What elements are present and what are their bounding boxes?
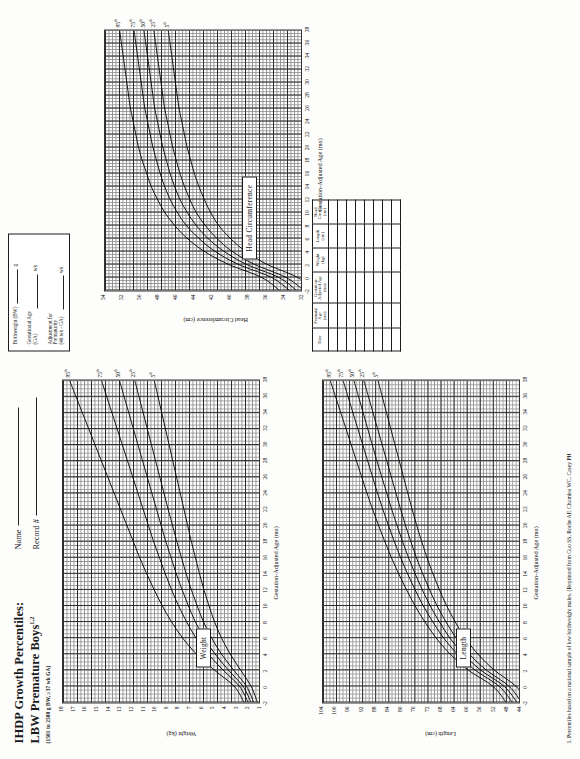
y-tick-label: 40	[227, 294, 233, 307]
x-tick-label: 26	[305, 105, 311, 111]
y-tick-label: 34	[281, 294, 287, 307]
x-tick-label: 6	[305, 237, 311, 240]
x-tick-label: 4	[305, 250, 311, 253]
y-tick-label: 50	[137, 294, 143, 307]
y-tick-label: 32	[299, 294, 305, 307]
percentile-label-75th: 75th	[129, 19, 136, 27]
x-tick-label: 32	[305, 66, 311, 72]
footnote: 1. Percentiles based on a national sampl…	[566, 453, 572, 743]
percentile-label-5th: 5th	[163, 22, 170, 28]
x-tick-label: 34	[305, 52, 311, 58]
x-tick-label: 12	[305, 197, 311, 203]
x-tick-label: 24	[305, 118, 311, 124]
x-tick-label: 10	[305, 210, 311, 216]
x-tick-label: -2	[305, 289, 311, 294]
y-tick-label: 42	[209, 294, 215, 307]
y-tick-label: 48	[155, 294, 161, 307]
x-tick-label: 38	[305, 26, 311, 32]
y-tick-label: 36	[263, 294, 269, 307]
x-tick-label: 8	[305, 224, 311, 227]
x-tick-label: 36	[305, 39, 311, 45]
x-tick-label: 20	[305, 144, 311, 150]
x-tick-label: 28	[305, 92, 311, 98]
y-tick-label: 52	[119, 294, 125, 307]
percentile-label-95th: 95th	[114, 19, 121, 27]
x-tick-label: 18	[305, 157, 311, 163]
x-tick-label: 2	[305, 263, 311, 266]
y-tick-label: 54	[101, 294, 107, 307]
y-tick-label: 44	[191, 294, 197, 307]
x-tick-label: 22	[305, 131, 311, 137]
x-tick-label: 14	[305, 183, 311, 189]
percentile-label-50th: 50th	[139, 19, 146, 27]
growth-chart-sheet: IHDP Growth Percentiles: LBW Premature B…	[0, 0, 580, 759]
x-tick-label: 30	[305, 79, 311, 85]
percentile-label-25th: 25th	[149, 19, 156, 27]
x-tick-label: 16	[305, 170, 311, 176]
head-axis-ticks: -202468101214161820222426283032343638323…	[0, 0, 580, 759]
y-tick-label: 38	[245, 294, 251, 307]
x-tick-label: 0	[305, 277, 311, 280]
head-circumference-panel: Head Circumference Head Circumference (c…	[0, 0, 580, 759]
y-tick-label: 46	[173, 294, 179, 307]
